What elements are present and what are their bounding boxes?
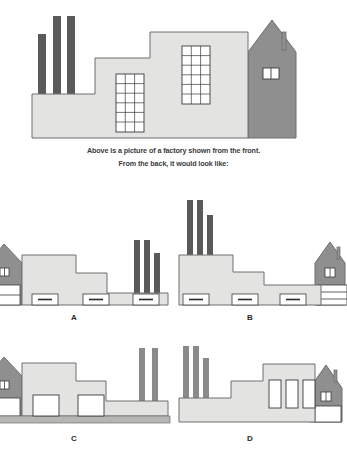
chimney-tall-2-icon (152, 348, 158, 401)
chimney-short-icon (154, 253, 160, 295)
chimney-tall-2-icon (67, 16, 75, 96)
option-c-label: C (64, 434, 84, 443)
factory-grid-window-left (116, 74, 144, 132)
house-door (0, 398, 20, 416)
house-roof-chimney-icon (282, 32, 286, 50)
factory-window-1 (33, 395, 59, 416)
factory-window-2 (78, 395, 104, 416)
option-a-svg[interactable] (0, 205, 172, 310)
chimney-tall-1-icon (183, 346, 189, 398)
factory-window-3 (303, 380, 315, 408)
chimney-tall-2-icon (197, 200, 203, 255)
option-b-svg[interactable] (175, 195, 347, 310)
chimney-short-icon (207, 215, 213, 255)
option-c-svg[interactable] (0, 336, 172, 431)
factory-front-svg (20, 6, 320, 146)
option-c-figure[interactable] (0, 336, 172, 431)
house-roof-chimney-icon (337, 247, 340, 259)
chimney-tall-2-icon (193, 346, 199, 398)
option-d-figure[interactable] (175, 336, 347, 431)
factory-window-3 (280, 294, 306, 305)
ground-base-strip (0, 416, 170, 423)
chimney-tall-1-icon (187, 200, 193, 255)
chimney-short-icon (38, 34, 46, 96)
house-door (315, 406, 341, 422)
factory-window-1 (183, 294, 209, 305)
chimney-tall-1-icon (139, 348, 145, 401)
factory-window-2 (286, 380, 298, 408)
option-b-figure[interactable] (175, 195, 347, 310)
option-a-label: A (64, 313, 84, 322)
main-figure-factory-front (20, 6, 320, 146)
factory-window-1 (32, 294, 58, 305)
option-d-label: D (240, 434, 260, 443)
option-b-label: B (240, 313, 260, 322)
chimney-tall-1-icon (134, 240, 140, 295)
option-d-svg[interactable] (175, 336, 347, 431)
factory-window-1 (269, 380, 281, 408)
option-a-figure[interactable] (0, 205, 172, 310)
chimney-tall-1-icon (53, 16, 61, 96)
factory-window-3 (133, 294, 159, 305)
factory-window-2 (83, 294, 109, 305)
house-roof-chimney-icon (334, 370, 337, 382)
factory-window-2 (232, 294, 258, 305)
chimney-tall-2-icon (144, 240, 150, 295)
caption-line-1: Above is a picture of a factory shown fr… (0, 146, 347, 155)
chimney-short-icon (203, 358, 209, 398)
factory-grid-window-right (182, 46, 210, 104)
caption-line-2: From the back, it would look like: (0, 159, 347, 168)
question-page: Above is a picture of a factory shown fr… (0, 0, 347, 454)
